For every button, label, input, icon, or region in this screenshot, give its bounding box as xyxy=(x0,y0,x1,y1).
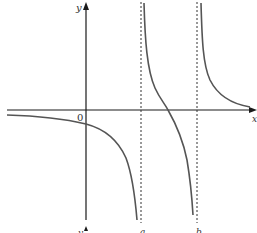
curve-branch-2 xyxy=(144,3,193,215)
origin-label: 0 xyxy=(77,112,83,123)
graph-canvas: y x 0 y a b xyxy=(0,0,257,233)
bottom-y-arrow-icon xyxy=(84,226,88,231)
curve-branch-1 xyxy=(7,115,137,220)
y-axis-arrow-icon xyxy=(83,2,89,10)
function-graph: y x 0 y a b xyxy=(0,0,257,233)
bottom-y-label: y xyxy=(77,228,84,233)
x-axis-label: x xyxy=(252,114,257,124)
curve-branch-3 xyxy=(201,3,250,107)
asymptote-a-label: a xyxy=(140,227,145,233)
y-axis-label: y xyxy=(75,2,82,13)
x-axis-arrow-icon xyxy=(249,107,257,113)
asymptote-b-label: b xyxy=(196,227,202,233)
